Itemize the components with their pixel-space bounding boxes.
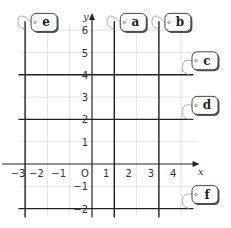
tag-c: c (182, 52, 219, 75)
x-tick-label: 4 (170, 168, 176, 179)
tag-label: c (203, 54, 210, 68)
origin-label: O (81, 168, 89, 179)
tag-label: e (42, 15, 50, 29)
y-tick-label: 1 (82, 137, 88, 148)
y-tick-label: 3 (82, 92, 88, 103)
tag-f: f (182, 186, 219, 209)
y-axis-arrow-icon (89, 13, 95, 20)
y-tick-label: −1 (73, 181, 88, 192)
x-tick-label: −2 (29, 168, 44, 179)
tag-hook-icon (182, 194, 192, 209)
tag-hook-icon (182, 60, 192, 75)
x-tick-label: 2 (125, 168, 131, 179)
tag-d: d (182, 96, 219, 119)
y-tick-label: 6 (82, 25, 88, 36)
plot-area: x y O −3−2−11234−2−1123456 abcdef (0, 0, 231, 228)
x-tick-label: 3 (148, 168, 154, 179)
x-tick-label: −3 (11, 168, 26, 179)
tag-label: b (176, 15, 184, 29)
tag-label: d (203, 98, 212, 112)
y-tick-label: 5 (82, 48, 88, 59)
tag-label: f (204, 188, 210, 202)
x-tick-label: 1 (103, 168, 109, 179)
x-tick-label: −1 (51, 168, 66, 179)
tag-label: a (131, 15, 139, 29)
line-tags: abcdef (18, 13, 220, 208)
tag-hook-icon (182, 105, 192, 120)
x-axis-label: x (198, 166, 204, 177)
coordinate-diagram: x y O −3−2−11234−2−1123456 abcdef (0, 0, 231, 228)
y-axis-label: y (82, 11, 89, 22)
plotted-lines (18, 21, 193, 217)
